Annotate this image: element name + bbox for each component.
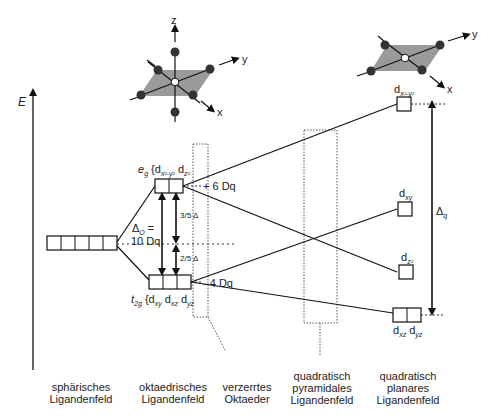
dz2-label: dz²: [401, 251, 413, 265]
delta-q-label: Δq: [436, 205, 447, 219]
caption-octahedral: oktaedrischesLigandenfeld: [138, 381, 208, 405]
t2g-energy-label: - 4 Dq: [203, 277, 233, 289]
caption-square-pyramidal: quadratischpyramidalesLigandenfeld: [288, 370, 356, 406]
three-fifths-label: 3/5 Δ: [180, 211, 198, 220]
dxy-orbital: [398, 202, 412, 216]
caption-distorted-octahedron: verzerrtesOktaeder: [220, 381, 274, 405]
dx2y2-label: dx²-y²: [394, 83, 414, 97]
square-planar-x-label: x: [447, 83, 453, 95]
diagram-canvas: [0, 0, 497, 416]
square-planar-icon: [357, 35, 467, 86]
energy-axis-label: E: [18, 95, 26, 109]
caption-square-planar: quadratischplanaresLigandenfeld: [376, 370, 440, 406]
spherical-orbitals: [47, 236, 117, 250]
octahedron-z-label: z: [171, 14, 177, 26]
distorted-octahedron-region: [193, 144, 208, 317]
t2g-label: t2g {dxy dxz dyz: [131, 293, 194, 307]
eg-orbitals: [155, 179, 183, 193]
dxy-label: dxy: [399, 187, 412, 201]
dx2y2-orbital: [397, 97, 411, 111]
dxz-dyz-label: dxz dyz: [393, 324, 422, 338]
octahedron-y-label: y: [242, 53, 248, 65]
dz2-orbital: [399, 265, 413, 279]
t2g-orbitals: [149, 275, 191, 289]
eg-energy-label: + 6 Dq: [203, 180, 236, 192]
square-pyramidal-region: [304, 130, 337, 323]
eg-label: eg {dx²-y² dz²: [138, 163, 190, 177]
dxz-dyz-orbitals: [393, 308, 421, 322]
two-fifths-label: 2/5 Δ: [180, 254, 198, 263]
octahedron-x-label: x: [217, 106, 223, 118]
delta-o-value: 10 Dq: [131, 235, 160, 247]
caption-spherical: sphärischesLigandenfeld: [48, 381, 114, 405]
square-planar-y-label: y: [472, 28, 478, 40]
